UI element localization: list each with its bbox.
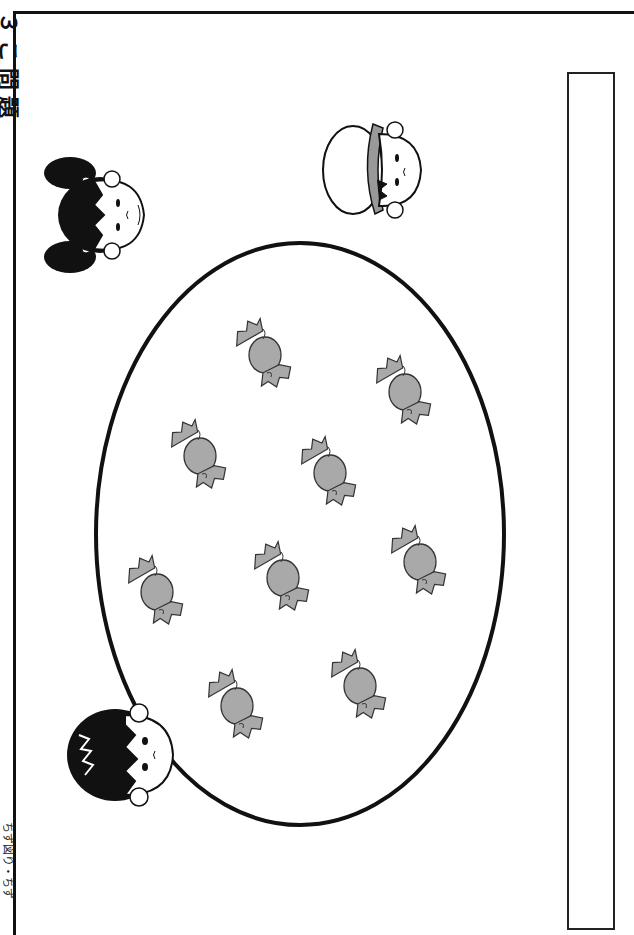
boy-icon <box>67 704 173 806</box>
candy-icon <box>294 433 361 510</box>
candies <box>121 315 451 743</box>
illustration <box>0 0 634 935</box>
candy-icon <box>324 646 391 723</box>
candy-icon <box>247 538 314 615</box>
candy-icon <box>369 352 436 429</box>
boy-with-cap-icon <box>323 122 421 218</box>
candy-icon <box>121 552 188 629</box>
candy-icon <box>229 315 296 392</box>
candy-icon <box>384 522 451 599</box>
girl-icon <box>44 157 144 273</box>
candy-icon <box>164 416 231 493</box>
candy-icon <box>201 666 268 743</box>
